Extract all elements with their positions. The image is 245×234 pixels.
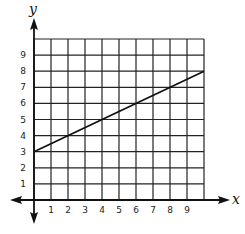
coordinate-grid-chart: 123456789 123456789 x y — [0, 0, 245, 234]
y-axis-label: y — [28, 1, 38, 17]
y-tick-label: 7 — [20, 82, 26, 92]
y-tick-label: 9 — [20, 50, 26, 60]
y-tick-label: 8 — [20, 66, 26, 76]
x-tick-label: 2 — [65, 205, 71, 215]
y-tick-label: 2 — [20, 163, 26, 173]
x-axis-label: x — [232, 191, 240, 207]
x-tick-label: 7 — [150, 205, 156, 215]
axes — [10, 18, 230, 224]
x-tick-label: 9 — [184, 205, 190, 215]
y-tick-label: 4 — [20, 131, 26, 141]
grid-lines — [34, 39, 204, 200]
y-tick-label: 3 — [20, 147, 26, 157]
x-tick-label: 1 — [48, 205, 54, 215]
y-tick-label: 1 — [20, 179, 26, 189]
x-tick-label: 4 — [99, 205, 105, 215]
y-tick-label: 5 — [20, 115, 26, 125]
x-tick-label: 3 — [82, 205, 88, 215]
x-tick-labels: 123456789 — [48, 205, 190, 215]
y-tick-label: 6 — [20, 98, 26, 108]
x-tick-label: 6 — [133, 205, 139, 215]
y-tick-labels: 123456789 — [20, 50, 26, 189]
x-tick-label: 8 — [167, 205, 173, 215]
x-tick-label: 5 — [116, 205, 122, 215]
